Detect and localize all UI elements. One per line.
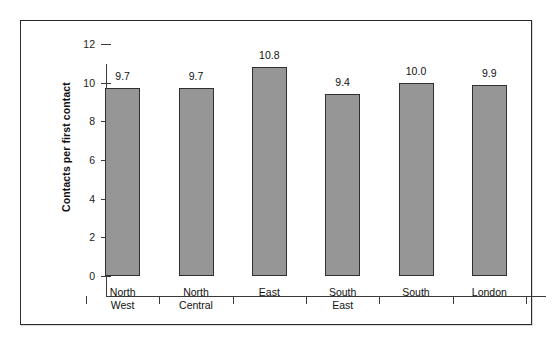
- x-axis-category-label: South: [376, 286, 456, 299]
- bar-value-label: 10.0: [386, 66, 446, 77]
- y-axis-tick-label: 2: [69, 232, 95, 243]
- y-axis-tick-label: 10: [69, 78, 95, 89]
- y-axis-tick: [101, 83, 111, 84]
- y-axis-tick-label: 8: [69, 116, 95, 127]
- bar[interactable]: [399, 83, 434, 276]
- x-axis-category-label: North Central: [156, 286, 236, 311]
- y-axis-tick-label: 4: [69, 194, 95, 205]
- x-axis-category-label: North West: [83, 286, 163, 311]
- figure-root: Contacts per first contact 024681012 9.7…: [0, 0, 552, 342]
- bar[interactable]: [252, 67, 287, 276]
- figure-border: Contacts per first contact 024681012 9.7…: [20, 20, 532, 325]
- x-axis-category-label: London: [449, 286, 529, 299]
- y-axis-title: Contacts per first contact: [60, 42, 72, 252]
- y-axis-tick-label: 12: [69, 39, 95, 50]
- bar-value-label: 9.7: [166, 71, 226, 82]
- bar-value-label: 9.9: [459, 68, 519, 79]
- bar[interactable]: [179, 88, 214, 276]
- x-axis-category-label: South East: [303, 286, 383, 311]
- bar[interactable]: [325, 94, 360, 276]
- bar-value-label: 9.4: [313, 77, 373, 88]
- y-axis-tick: [101, 276, 111, 277]
- y-axis-tick: [101, 44, 111, 45]
- bar[interactable]: [472, 85, 507, 276]
- bar-value-label: 9.7: [93, 71, 153, 82]
- x-axis-category-label: East: [229, 286, 309, 299]
- bar[interactable]: [105, 88, 140, 276]
- y-axis-tick-label: 0: [69, 271, 95, 282]
- bar-value-label: 10.8: [239, 50, 299, 61]
- y-axis-tick-label: 6: [69, 155, 95, 166]
